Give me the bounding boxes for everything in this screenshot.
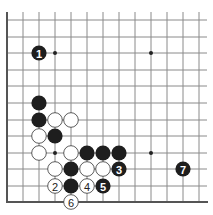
star-point	[53, 151, 57, 155]
white-stone	[64, 113, 79, 128]
white-stone-disc	[48, 113, 63, 128]
black-stone	[63, 178, 78, 193]
black-stone-disc	[111, 145, 126, 160]
white-stone	[96, 162, 111, 177]
white-stone	[64, 146, 79, 161]
black-stone	[111, 145, 126, 160]
move-number-label: 4	[84, 181, 90, 193]
white-stone-disc	[64, 146, 79, 161]
star-point	[53, 51, 57, 55]
move-number-label: 3	[116, 164, 122, 176]
move-number-label: 2	[52, 181, 58, 193]
black-stone-disc	[95, 145, 110, 160]
black-stone: 1	[31, 45, 46, 60]
black-stone-disc	[31, 95, 46, 110]
move-number-label: 6	[68, 197, 74, 209]
move-number-label: 1	[36, 48, 42, 60]
white-stone	[80, 162, 95, 177]
white-stone-disc	[32, 129, 47, 144]
black-stone	[47, 128, 62, 143]
white-stone: 4	[80, 179, 95, 194]
black-stone: 3	[111, 161, 126, 176]
white-stone	[32, 146, 47, 161]
black-stone-disc	[63, 178, 78, 193]
white-stone-disc	[96, 162, 111, 177]
move-number-label: 7	[180, 164, 186, 176]
star-point	[149, 151, 153, 155]
black-stone: 7	[175, 161, 190, 176]
star-point	[149, 51, 153, 55]
white-stone-disc	[80, 162, 95, 177]
white-stone: 2	[48, 179, 63, 194]
black-stone-disc	[63, 161, 78, 176]
black-stone: 5	[95, 178, 110, 193]
move-number-label: 5	[100, 181, 106, 193]
go-board: 1324567	[0, 0, 213, 215]
black-stone	[95, 145, 110, 160]
black-stone-disc	[31, 112, 46, 127]
white-stone-disc	[64, 113, 79, 128]
white-stone	[32, 129, 47, 144]
black-stone	[63, 161, 78, 176]
white-stone-disc	[32, 146, 47, 161]
white-stone	[48, 113, 63, 128]
black-stone	[31, 112, 46, 127]
black-stone	[31, 95, 46, 110]
black-stone-disc	[47, 128, 62, 143]
white-stone-disc	[48, 162, 63, 177]
white-stone: 6	[64, 195, 79, 210]
black-stone	[79, 145, 94, 160]
white-stone	[48, 162, 63, 177]
black-stone-disc	[79, 145, 94, 160]
